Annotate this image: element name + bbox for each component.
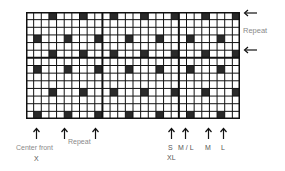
filled-stitch <box>110 88 118 96</box>
filled-stitch <box>80 50 88 58</box>
filled-stitch <box>49 50 57 58</box>
filled-stitch <box>49 88 57 96</box>
size-xl-label: XL <box>167 154 176 161</box>
up-arrow-icon <box>181 127 190 139</box>
filled-stitch <box>125 35 133 43</box>
filled-stitch <box>217 66 225 74</box>
filled-stitch <box>110 50 118 58</box>
size-ml-label: M / L <box>178 144 194 151</box>
filled-stitch <box>95 66 103 74</box>
size-m-label: M <box>205 144 211 151</box>
repeat-right-label: Repeat <box>243 26 267 35</box>
filled-stitch <box>141 88 149 96</box>
filled-stitch <box>80 88 88 96</box>
filled-stitch <box>202 50 210 58</box>
filled-stitch <box>202 88 210 96</box>
filled-stitch <box>34 35 42 43</box>
size-l-label: L <box>221 144 225 151</box>
filled-stitch <box>156 66 164 74</box>
filled-stitch <box>217 35 225 43</box>
repeat-bottom-label: Repeat <box>68 138 91 145</box>
filled-stitch <box>171 88 179 96</box>
filled-stitch <box>187 66 195 74</box>
filled-stitch <box>64 66 72 74</box>
filled-stitch <box>141 50 149 58</box>
filled-stitch <box>125 66 133 74</box>
repeat-bottom-arrow-icon <box>243 46 257 54</box>
filled-stitch <box>156 35 164 43</box>
knitting-chart-grid <box>26 12 240 119</box>
up-arrow-icon <box>204 127 213 139</box>
up-arrow-icon <box>219 127 228 139</box>
up-arrow-icon <box>167 127 176 139</box>
center-front-x-label: X <box>34 155 39 162</box>
repeat-top-arrow-icon <box>243 9 257 17</box>
filled-stitch <box>34 66 42 74</box>
size-s-label: S <box>168 144 173 151</box>
filled-stitch <box>171 50 179 58</box>
filled-stitch <box>64 35 72 43</box>
up-arrow-icon <box>32 127 41 139</box>
center-front-label: Center front <box>16 144 53 151</box>
filled-stitch <box>187 35 195 43</box>
filled-stitch <box>95 35 103 43</box>
up-arrow-icon <box>91 127 100 139</box>
